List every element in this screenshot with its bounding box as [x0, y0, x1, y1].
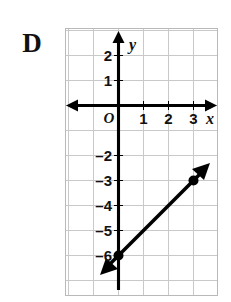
y-tick-label-neg2: –2 — [95, 147, 112, 164]
y-tick-label-1: 1 — [104, 72, 112, 89]
y-tick-label-neg5: –5 — [95, 222, 112, 239]
x-axis-label: x — [205, 110, 214, 127]
graph-figure: D — [0, 0, 231, 302]
x-tick-label-2: 2 — [164, 110, 172, 127]
plot-point-0-neg6 — [114, 251, 124, 261]
y-tick-label-neg6: –6 — [95, 247, 112, 264]
origin-label: O — [104, 110, 115, 126]
answer-choice-letter: D — [12, 26, 52, 60]
x-tick-label-1: 1 — [139, 110, 147, 127]
plot-point-3-neg3 — [189, 176, 199, 186]
y-tick-label-neg4: –4 — [95, 197, 112, 214]
y-tick-label-2: 2 — [104, 47, 112, 64]
x-tick-label-3: 3 — [189, 110, 197, 127]
coordinate-plane: 2 1 –2 –3 –4 –5 –6 1 2 3 O y x — [65, 28, 218, 296]
coordinate-plane-svg: 2 1 –2 –3 –4 –5 –6 1 2 3 O y x — [65, 28, 218, 296]
y-tick-label-neg3: –3 — [95, 172, 112, 189]
y-axis-label: y — [127, 36, 137, 54]
